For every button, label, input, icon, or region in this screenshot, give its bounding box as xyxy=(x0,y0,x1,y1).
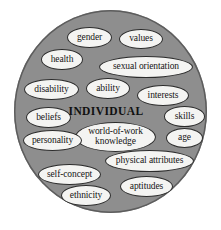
individual-factors-diagram: gendervalueshealthsexual orientationdisa… xyxy=(0,0,221,230)
node-label: self-concept xyxy=(46,170,93,180)
node-label: ethnicity xyxy=(69,191,103,201)
node-label: beliefs xyxy=(35,113,62,123)
node-label: disability xyxy=(33,85,69,95)
center-label: INDIVIDUAL xyxy=(62,102,150,120)
node-self-concept: self-concept xyxy=(38,164,101,185)
node-physical-attributes: physical attributes xyxy=(105,150,194,172)
node-disability: disability xyxy=(24,79,79,100)
node-personality: personality xyxy=(23,130,82,151)
node-health: health xyxy=(41,49,83,70)
node-label: age xyxy=(177,133,192,143)
node-age: age xyxy=(166,128,203,148)
node-label: health xyxy=(50,55,75,65)
node-label: interests xyxy=(147,91,180,101)
node-label: personality xyxy=(31,136,74,146)
node-label: sexual orientation xyxy=(112,62,180,72)
node-gender: gender xyxy=(67,27,112,48)
node-label: world-of-work knowledge xyxy=(76,127,155,146)
node-label: values xyxy=(128,34,154,44)
node-label: physical attributes xyxy=(115,156,185,166)
node-values: values xyxy=(119,29,163,49)
node-skills: skills xyxy=(164,106,205,127)
node-ethnicity: ethnicity xyxy=(61,185,111,206)
node-sexual-orientation: sexual orientation xyxy=(99,56,193,78)
node-label: skills xyxy=(174,112,195,122)
node-label: gender xyxy=(76,33,103,43)
node-aptitudes: aptitudes xyxy=(120,176,173,197)
node-label: aptitudes xyxy=(129,182,164,192)
node-ability: ability xyxy=(86,78,130,99)
node-label: ability xyxy=(95,84,121,94)
node-world-of-work-knowledge: world-of-work knowledge xyxy=(75,122,156,152)
